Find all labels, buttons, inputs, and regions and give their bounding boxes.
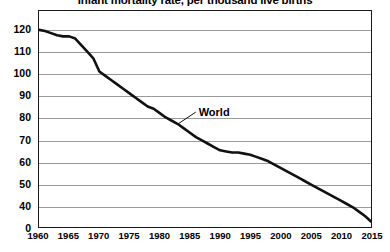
chart-title: Infant mortality rate, per thousand live… (0, 0, 390, 7)
y-tick-label: 90 (19, 90, 31, 100)
y-tick-label: 120 (13, 24, 31, 34)
x-tick-label: 1995 (240, 230, 261, 241)
series-label-world: World (199, 106, 230, 118)
x-tick-label: 1975 (119, 230, 140, 241)
x-tick-label: 2010 (331, 230, 352, 241)
y-tick-label: 100 (13, 68, 31, 78)
x-tick-label: 1970 (88, 230, 109, 241)
y-tick-label: 40 (19, 201, 31, 211)
y-tick-label: 70 (19, 135, 31, 145)
x-tick-label: 1960 (27, 230, 48, 241)
x-tick-label: 1965 (58, 230, 79, 241)
x-tick-label: 1980 (149, 230, 170, 241)
x-tick-label: 2005 (301, 230, 322, 241)
x-tick-label: 1990 (210, 230, 231, 241)
x-axis: 1960196519701975198019851990199520002005… (0, 230, 390, 244)
y-tick-label: 50 (19, 179, 31, 189)
x-tick-label: 2000 (270, 230, 291, 241)
infant-mortality-chart: Infant mortality rate, per thousand live… (0, 0, 390, 252)
y-axis: 1201101009080706050400 (0, 10, 34, 228)
y-tick-label: 80 (19, 112, 31, 122)
y-tick-label: 110 (14, 46, 31, 56)
plot-area: World (38, 10, 372, 228)
series-world-line (39, 11, 371, 227)
x-tick-label: 2015 (361, 230, 382, 241)
y-tick-label: 60 (19, 157, 31, 167)
x-tick-label: 1985 (179, 230, 200, 241)
series-leader-line (178, 112, 196, 124)
